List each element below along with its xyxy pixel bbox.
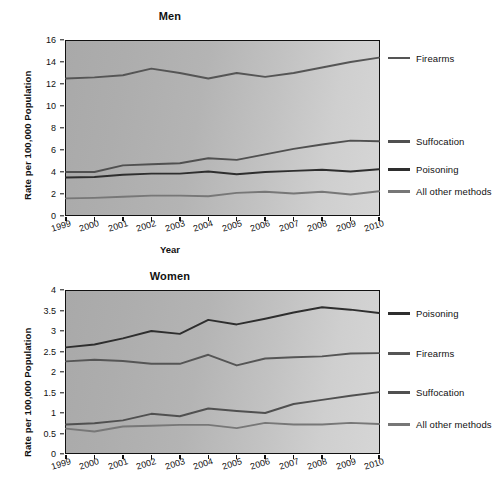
x-axis-label-men: Year [0,244,340,255]
x-tick-label: 2008 [306,456,328,471]
legend-swatch-icon [388,168,410,171]
line-poisoning [66,169,379,177]
line-suffocation [66,392,379,424]
legend-swatch-icon [388,57,410,60]
x-tick-label: 2007 [278,218,300,233]
legend-label: Poisoning [416,308,459,319]
x-tick-label: 2008 [306,218,328,233]
y-tick-label: 1 [0,408,56,418]
legend-item-firearms: Firearms [388,53,454,64]
chart-title-women: Women [0,270,340,282]
legend-label: Firearms [416,53,454,64]
legend-label: All other methods [416,186,492,197]
legend-swatch-icon [388,140,410,143]
legend-item-all-other-methods: All other methods [388,186,492,197]
y-tick-label: 2 [0,367,56,377]
y-tick-label: 4 [0,167,56,177]
x-tick-label: 2007 [278,456,300,471]
line-suffocation [66,141,379,172]
x-tick-label: 2009 [335,218,357,233]
legend-item-suffocation: Suffocation [388,136,464,147]
legend-item-poisoning: Poisoning [388,308,459,319]
legend-item-suffocation: Suffocation [388,387,464,398]
y-tick-mark [60,330,64,331]
y-tick-label: 0.5 [0,429,56,439]
legend-swatch-icon [388,312,410,315]
legend-swatch-icon [388,352,410,355]
line-all-other-methods [66,423,379,432]
y-tick-label: 1.5 [0,388,56,398]
legend-swatch-icon [388,423,410,426]
line-all-other-methods [66,191,379,198]
x-tick-label: 2000 [78,456,100,471]
chart-panel-men: Men Rate per 100,000 Population 02468101… [0,0,504,258]
x-tick-label: 2004 [192,456,214,471]
y-tick-mark [60,193,64,194]
y-tick-label: 0 [0,211,56,221]
chart-title-men: Men [0,10,340,22]
x-tick-label: 2010 [363,456,385,471]
legend-label: Poisoning [416,164,459,175]
y-tick-label: 14 [0,57,56,67]
x-tick-label: 2003 [164,456,186,471]
legend-label: Firearms [416,348,454,359]
y-tick-mark [60,171,64,172]
plot-area-men [65,40,380,216]
x-tick-label: 2006 [249,456,271,471]
y-tick-mark [60,351,64,352]
y-axis-label-men: Rate per 100,000 Population [22,71,33,200]
legend-item-firearms: Firearms [388,348,454,359]
y-tick-mark [60,127,64,128]
legend-item-all-other-methods: All other methods [388,419,492,430]
x-tick-label: 2001 [107,456,129,471]
y-tick-label: 2.5 [0,347,56,357]
legend-label: Suffocation [416,136,464,147]
y-tick-mark [60,215,64,216]
x-tick-label: 2001 [107,218,129,233]
legend-swatch-icon [388,391,410,394]
y-tick-mark [60,433,64,434]
legend-swatch-icon [388,190,410,193]
x-tick-label: 2003 [164,218,186,233]
x-tick-label: 2004 [192,218,214,233]
y-tick-mark [60,289,64,290]
series-lines-women [65,290,380,454]
x-tick-label: 2000 [78,218,100,233]
x-tick-label: 2002 [135,456,157,471]
x-tick-label: 2009 [335,456,357,471]
x-tick-label: 2006 [249,218,271,233]
legend-label: Suffocation [416,387,464,398]
y-tick-label: 3.5 [0,306,56,316]
chart-panel-women: Women Rate per 100,000 Population 00.511… [0,262,504,498]
y-tick-label: 12 [0,79,56,89]
line-poisoning [66,307,379,347]
legend-item-poisoning: Poisoning [388,164,459,175]
line-firearms [66,353,379,365]
y-tick-label: 8 [0,123,56,133]
y-tick-mark [60,371,64,372]
y-tick-mark [60,310,64,311]
y-tick-mark [60,39,64,40]
y-tick-mark [60,149,64,150]
y-tick-mark [60,412,64,413]
plot-area-women [65,290,380,454]
y-tick-label: 10 [0,101,56,111]
x-tick-label: 2010 [363,218,385,233]
y-tick-mark [60,105,64,106]
y-tick-mark [60,83,64,84]
y-tick-mark [60,453,64,454]
y-tick-label: 4 [0,285,56,295]
y-tick-label: 3 [0,326,56,336]
x-tick-label: 2005 [221,456,243,471]
line-firearms [66,58,379,79]
legend-label: All other methods [416,419,492,430]
y-tick-label: 16 [0,35,56,45]
x-tick-label: 2002 [135,218,157,233]
y-tick-label: 0 [0,449,56,459]
x-tick-label: 2005 [221,218,243,233]
series-lines-men [65,40,380,216]
y-tick-mark [60,392,64,393]
y-tick-mark [60,61,64,62]
y-tick-label: 2 [0,189,56,199]
y-tick-label: 6 [0,145,56,155]
